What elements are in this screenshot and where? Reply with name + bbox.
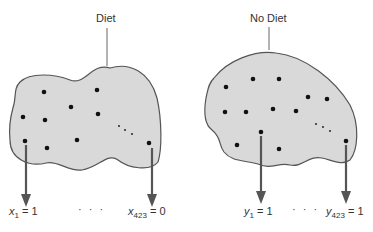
x1-label: x1 = 1 (9, 205, 38, 220)
no-diet-ellipsis: · · · (292, 203, 319, 215)
diet-group-title: Diet (96, 12, 116, 24)
x423-label: x423 = 0 (128, 205, 166, 220)
y1-label: y1 = 1 (244, 205, 273, 220)
y423-label: y423 = 1 (326, 205, 364, 220)
diet-population-blob (9, 28, 160, 207)
diagram-canvas (0, 0, 373, 232)
no-diet-group-title: No Diet (250, 12, 287, 24)
no-diet-population-blob (205, 27, 357, 204)
diet-ellipsis: · · · (78, 203, 105, 215)
